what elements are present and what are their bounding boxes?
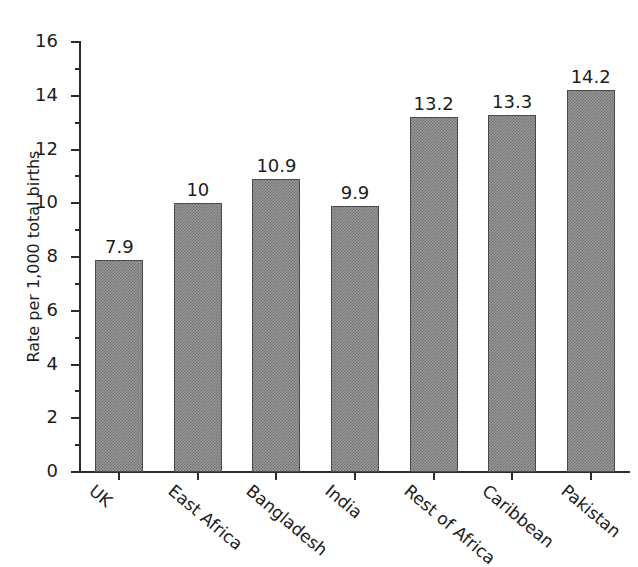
y-tick-label: 8 [47,247,58,265]
x-tick [590,473,592,480]
x-tick [354,473,356,480]
bar[interactable]: 10.9 [252,179,300,472]
bar[interactable]: 13.2 [410,117,458,472]
y-tick-minor [75,175,80,177]
x-category-label: Pakistan [558,482,623,541]
bar[interactable]: 9.9 [331,206,379,472]
bar[interactable]: 7.9 [95,260,143,472]
bar-value-label: 13.3 [492,93,532,111]
y-tick-minor [75,444,80,446]
y-tick-major: 6 [71,310,80,312]
y-tick-label: 6 [47,301,58,319]
chart-title [0,0,638,3]
y-tick-label: 10 [35,193,58,211]
y-tick-label: 2 [47,408,58,426]
x-category-label: Bangladesh [243,482,330,559]
bar-chart: Rate per 1,000 total births 024681012141… [0,0,638,567]
x-tick [433,473,435,480]
y-tick-major: 4 [71,364,80,366]
x-tick [275,473,277,480]
bar[interactable]: 10 [174,203,222,472]
y-tick-label: 12 [35,139,58,157]
y-tick-major: 8 [71,256,80,258]
x-tick [511,473,513,480]
y-tick-minor [75,390,80,392]
bar[interactable]: 14.2 [567,90,615,472]
bar[interactable]: 13.3 [488,115,536,472]
y-tick-label: 14 [35,86,58,104]
y-tick-major: 14 [71,95,80,97]
x-category-label: East Africa [165,482,245,553]
y-tick-label: 4 [47,354,58,372]
bar-value-label: 13.2 [414,95,454,113]
y-tick-major: 12 [71,149,80,151]
bar-value-label: 9.9 [341,184,370,202]
y-tick-minor [75,337,80,339]
y-tick-major: 2 [71,417,80,419]
bar-value-label: 10.9 [256,157,296,175]
y-tick-label: 16 [35,32,58,50]
x-tick [118,473,120,480]
y-tick-major: 0 [71,471,80,473]
bar-value-label: 7.9 [105,238,134,256]
y-tick-minor [75,122,80,124]
x-category-label: India [322,482,365,522]
y-tick-major: 16 [71,41,80,43]
plot-area: 0246810121416 7.91010.99.913.213.314.2 [80,42,630,472]
y-tick-label: 0 [47,462,58,480]
bar-value-label: 10 [186,181,209,199]
y-tick-minor [75,68,80,70]
x-category-label: UK [86,482,115,510]
bar-value-label: 14.2 [571,68,611,86]
y-tick-minor [75,229,80,231]
y-tick-minor [75,283,80,285]
x-category-label: Caribbean [479,482,557,551]
x-tick [197,473,199,480]
y-tick-major: 10 [71,202,80,204]
